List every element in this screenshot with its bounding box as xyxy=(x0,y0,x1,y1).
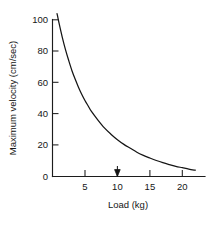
force-velocity-chart-figure: 100 80 60 40 20 0 5 10 15 20 Load (kg) M… xyxy=(0,0,216,226)
x-tick-label-15: 15 xyxy=(145,181,156,192)
x-axis-title: Load (kg) xyxy=(108,199,148,210)
chart-background xyxy=(0,0,216,226)
x-tick-label-10: 10 xyxy=(112,181,123,192)
y-tick-label-40: 40 xyxy=(37,108,48,119)
chart-canvas: 100 80 60 40 20 0 5 10 15 20 Load (kg) M… xyxy=(0,0,216,226)
x-tick-label-5: 5 xyxy=(82,181,87,192)
x-tick-label-20: 20 xyxy=(177,181,188,192)
y-tick-label-20: 20 xyxy=(37,139,48,150)
y-tick-label-80: 80 xyxy=(37,45,48,56)
y-tick-label-60: 60 xyxy=(37,77,48,88)
y-axis-title: Maximum velocity (cm/sec) xyxy=(7,41,18,156)
y-tick-label-0: 0 xyxy=(43,171,48,182)
y-tick-label-100: 100 xyxy=(32,14,48,25)
